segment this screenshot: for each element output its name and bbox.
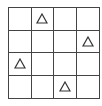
triangle-icon: [82, 36, 94, 47]
board-cell-r2-c0[interactable]: [9, 53, 32, 76]
game-board: [8, 7, 100, 99]
board-cell-r2-c3[interactable]: [77, 53, 100, 76]
board-cell-r0-c1[interactable]: [32, 8, 55, 31]
triangle-icon: [14, 58, 26, 69]
board-cell-r3-c3[interactable]: [77, 76, 100, 99]
board-cell-r2-c2[interactable]: [54, 53, 77, 76]
board-cell-r3-c2[interactable]: [54, 76, 77, 99]
triangle-icon: [59, 81, 71, 92]
board-cell-r0-c3[interactable]: [77, 8, 100, 31]
board-cell-r0-c0[interactable]: [9, 8, 32, 31]
board-cell-r1-c3[interactable]: [77, 31, 100, 54]
board-cell-r2-c1[interactable]: [32, 53, 55, 76]
board-cell-r1-c0[interactable]: [9, 31, 32, 54]
board-cell-r1-c2[interactable]: [54, 31, 77, 54]
triangle-icon: [36, 13, 48, 24]
board-cell-r3-c0[interactable]: [9, 76, 32, 99]
board-cell-r0-c2[interactable]: [54, 8, 77, 31]
board-cell-r1-c1[interactable]: [32, 31, 55, 54]
board-cell-r3-c1[interactable]: [32, 76, 55, 99]
